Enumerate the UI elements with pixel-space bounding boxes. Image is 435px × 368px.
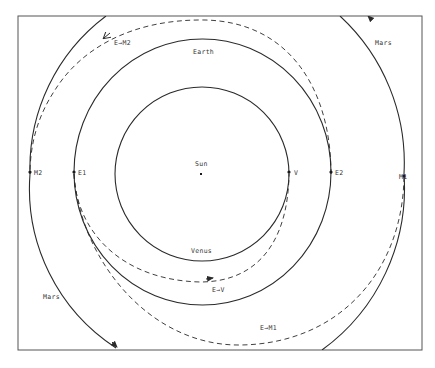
transfer-arrow-earth-to-venus-icon xyxy=(206,278,213,279)
orbit-transfer-diagram: Sun Venus Earth Mars Mars M2 E1 V E2 M1 … xyxy=(0,0,435,368)
mars-orbit xyxy=(29,16,404,350)
point-m2-marker xyxy=(28,170,31,173)
label-mars-bottom: Mars xyxy=(43,293,60,301)
transfer-path-earth-to-mars1 xyxy=(74,174,404,345)
earth-orbit xyxy=(74,39,331,305)
label-point-m1: M1 xyxy=(399,173,407,181)
label-point-e1: E1 xyxy=(78,169,86,177)
label-point-v: V xyxy=(294,169,298,177)
transfer-arrow-earth-to-mars2-icon xyxy=(104,33,110,38)
label-venus: Venus xyxy=(191,247,212,255)
point-e1-marker xyxy=(72,170,75,173)
label-transfer-earth-to-mars1: E→M1 xyxy=(260,324,277,332)
label-transfer-earth-to-mars2: E→M2 xyxy=(114,39,131,47)
label-transfer-earth-to-venus: E→V xyxy=(212,286,225,294)
point-v-marker xyxy=(287,170,290,173)
sun-marker xyxy=(200,173,202,175)
point-e2-marker xyxy=(329,170,332,173)
label-mars-top: Mars xyxy=(375,39,392,47)
label-sun: Sun xyxy=(195,160,208,168)
label-earth: Earth xyxy=(193,48,214,56)
label-point-m2: M2 xyxy=(34,169,42,177)
transfer-path-earth-to-venus xyxy=(74,174,289,282)
diagram-frame xyxy=(18,16,422,350)
mars-direction-arrow-top-icon xyxy=(368,16,372,20)
label-point-e2: E2 xyxy=(335,169,343,177)
